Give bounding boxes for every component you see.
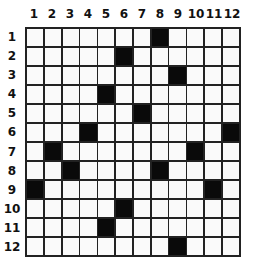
grid-cell-empty[interactable] bbox=[152, 219, 168, 236]
grid-cell-empty[interactable] bbox=[223, 219, 239, 236]
grid-cell-empty[interactable] bbox=[205, 219, 221, 236]
grid-cell-filled[interactable] bbox=[169, 238, 185, 255]
grid-cell-empty[interactable] bbox=[98, 181, 114, 198]
grid-cell-empty[interactable] bbox=[152, 48, 168, 65]
grid-cell-empty[interactable] bbox=[27, 105, 43, 122]
grid-cell-filled[interactable] bbox=[152, 162, 168, 179]
grid-cell-empty[interactable] bbox=[80, 29, 96, 46]
grid-cell-empty[interactable] bbox=[223, 105, 239, 122]
grid-cell-empty[interactable] bbox=[205, 200, 221, 217]
grid-cell-empty[interactable] bbox=[45, 181, 61, 198]
grid-cell-empty[interactable] bbox=[80, 200, 96, 217]
grid-cell-empty[interactable] bbox=[116, 124, 132, 141]
grid-cell-empty[interactable] bbox=[187, 238, 203, 255]
grid-cell-empty[interactable] bbox=[187, 105, 203, 122]
grid-cell-empty[interactable] bbox=[152, 143, 168, 160]
grid-cell-empty[interactable] bbox=[27, 200, 43, 217]
grid-cell-filled[interactable] bbox=[187, 143, 203, 160]
grid-cell-empty[interactable] bbox=[116, 86, 132, 103]
grid-cell-empty[interactable] bbox=[223, 29, 239, 46]
grid-cell-empty[interactable] bbox=[134, 29, 150, 46]
grid-cell-empty[interactable] bbox=[45, 67, 61, 84]
grid-cell-filled[interactable] bbox=[98, 86, 114, 103]
grid-cell-empty[interactable] bbox=[223, 67, 239, 84]
grid-cell-filled[interactable] bbox=[98, 219, 114, 236]
grid-cell-empty[interactable] bbox=[205, 162, 221, 179]
grid-cell-empty[interactable] bbox=[27, 162, 43, 179]
grid-cell-empty[interactable] bbox=[134, 48, 150, 65]
grid-cell-filled[interactable] bbox=[116, 200, 132, 217]
grid-cell-empty[interactable] bbox=[80, 143, 96, 160]
grid-cell-empty[interactable] bbox=[187, 29, 203, 46]
grid-cell-empty[interactable] bbox=[134, 86, 150, 103]
grid-cell-empty[interactable] bbox=[152, 124, 168, 141]
grid-cell-empty[interactable] bbox=[27, 219, 43, 236]
grid-cell-empty[interactable] bbox=[45, 48, 61, 65]
grid-cell-empty[interactable] bbox=[169, 124, 185, 141]
grid-cell-empty[interactable] bbox=[187, 48, 203, 65]
grid-cell-empty[interactable] bbox=[63, 200, 79, 217]
grid-cell-empty[interactable] bbox=[45, 29, 61, 46]
grid-cell-empty[interactable] bbox=[152, 181, 168, 198]
grid-cell-empty[interactable] bbox=[63, 29, 79, 46]
grid-cell-empty[interactable] bbox=[27, 67, 43, 84]
grid-cell-empty[interactable] bbox=[187, 124, 203, 141]
grid-cell-empty[interactable] bbox=[116, 105, 132, 122]
grid-cell-empty[interactable] bbox=[80, 86, 96, 103]
grid-cell-empty[interactable] bbox=[223, 162, 239, 179]
grid-cell-empty[interactable] bbox=[98, 143, 114, 160]
grid-cell-empty[interactable] bbox=[116, 219, 132, 236]
grid-cell-empty[interactable] bbox=[223, 200, 239, 217]
grid-cell-filled[interactable] bbox=[152, 29, 168, 46]
grid-cell-empty[interactable] bbox=[45, 219, 61, 236]
grid-cell-empty[interactable] bbox=[45, 200, 61, 217]
grid-cell-empty[interactable] bbox=[98, 162, 114, 179]
grid-cell-empty[interactable] bbox=[169, 181, 185, 198]
grid-cell-empty[interactable] bbox=[134, 200, 150, 217]
grid-cell-empty[interactable] bbox=[80, 238, 96, 255]
grid-cell-empty[interactable] bbox=[27, 124, 43, 141]
grid-cell-empty[interactable] bbox=[223, 86, 239, 103]
grid-cell-empty[interactable] bbox=[134, 67, 150, 84]
grid-cell-empty[interactable] bbox=[98, 29, 114, 46]
grid-cell-empty[interactable] bbox=[134, 143, 150, 160]
grid-cell-empty[interactable] bbox=[205, 29, 221, 46]
grid-cell-empty[interactable] bbox=[27, 48, 43, 65]
grid-cell-empty[interactable] bbox=[223, 48, 239, 65]
grid-cell-empty[interactable] bbox=[205, 124, 221, 141]
grid-cell-empty[interactable] bbox=[169, 48, 185, 65]
grid-cell-empty[interactable] bbox=[169, 86, 185, 103]
grid-cell-empty[interactable] bbox=[205, 67, 221, 84]
grid-cell-empty[interactable] bbox=[223, 181, 239, 198]
grid-cell-empty[interactable] bbox=[152, 105, 168, 122]
grid-cell-filled[interactable] bbox=[116, 48, 132, 65]
grid-cell-empty[interactable] bbox=[98, 200, 114, 217]
grid-cell-empty[interactable] bbox=[98, 124, 114, 141]
grid-cell-empty[interactable] bbox=[45, 162, 61, 179]
grid-cell-empty[interactable] bbox=[187, 67, 203, 84]
grid-cell-empty[interactable] bbox=[205, 48, 221, 65]
grid-cell-empty[interactable] bbox=[169, 162, 185, 179]
grid-cell-empty[interactable] bbox=[187, 181, 203, 198]
grid-cell-empty[interactable] bbox=[27, 238, 43, 255]
grid-cell-empty[interactable] bbox=[63, 219, 79, 236]
grid-cell-empty[interactable] bbox=[223, 238, 239, 255]
grid-cell-empty[interactable] bbox=[169, 29, 185, 46]
grid-cell-empty[interactable] bbox=[45, 86, 61, 103]
grid-cell-empty[interactable] bbox=[152, 67, 168, 84]
grid-cell-empty[interactable] bbox=[116, 181, 132, 198]
grid-cell-empty[interactable] bbox=[116, 143, 132, 160]
grid-cell-filled[interactable] bbox=[205, 181, 221, 198]
grid-cell-empty[interactable] bbox=[80, 105, 96, 122]
grid-cell-empty[interactable] bbox=[80, 219, 96, 236]
grid-cell-empty[interactable] bbox=[205, 143, 221, 160]
grid-cell-empty[interactable] bbox=[152, 238, 168, 255]
grid-cell-empty[interactable] bbox=[80, 181, 96, 198]
grid-cell-empty[interactable] bbox=[116, 162, 132, 179]
grid-cell-empty[interactable] bbox=[205, 238, 221, 255]
grid-cell-empty[interactable] bbox=[80, 48, 96, 65]
grid-cell-empty[interactable] bbox=[63, 67, 79, 84]
grid-cell-empty[interactable] bbox=[27, 86, 43, 103]
grid-cell-empty[interactable] bbox=[205, 105, 221, 122]
grid-cell-empty[interactable] bbox=[80, 67, 96, 84]
